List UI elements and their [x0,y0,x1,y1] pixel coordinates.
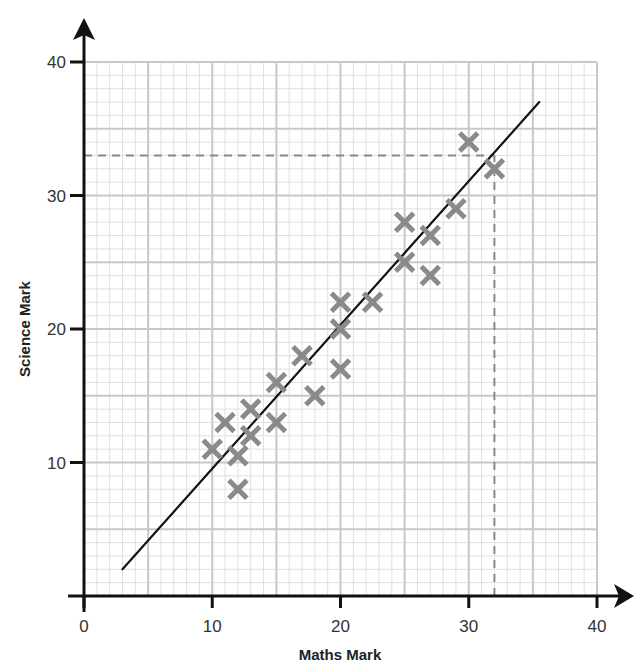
x-tick-label: 10 [203,617,222,636]
x-tick-label: 30 [459,617,478,636]
y-tick-label: 10 [47,454,66,473]
axis-ticks: 01020304010203040 [47,53,606,636]
x-axis-title: Maths Mark [299,646,382,663]
y-axis-title: Science Mark [16,280,33,377]
y-tick-label: 20 [47,320,66,339]
y-tick-label: 40 [47,53,66,72]
axes [68,18,634,612]
x-tick-label: 20 [331,617,350,636]
scatter-chart: 01020304010203040 Maths Mark Science Mar… [0,0,635,667]
x-tick-label: 40 [588,617,607,636]
x-tick-label: 0 [79,617,88,636]
y-tick-label: 30 [47,187,66,206]
